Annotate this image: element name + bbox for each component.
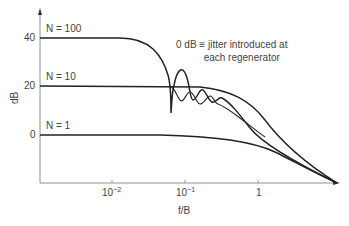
x-tick-0.01: 10−2	[102, 188, 121, 198]
series-label-n10: N = 10	[46, 72, 76, 82]
annotation: 0 dB ≡ jitter introduced at each regener…	[176, 39, 287, 64]
y-tick-40: 40	[24, 33, 35, 43]
y-axis-arrow-icon	[38, 8, 42, 15]
y-axis-label: dB	[10, 92, 20, 104]
series-label-n100: N = 100	[46, 24, 81, 34]
series-label-n1: N = 1	[46, 121, 70, 131]
y-tick-20: 20	[24, 81, 35, 91]
x-tick-0.1: 10−1	[176, 188, 195, 198]
y-tick-0: 0	[30, 130, 36, 140]
x-axis-label: f/B	[178, 206, 190, 216]
x-tick-1: 1	[256, 188, 262, 198]
